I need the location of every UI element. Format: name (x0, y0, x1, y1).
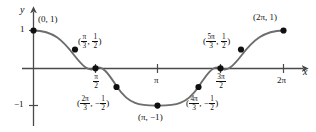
point-label-2pi-1: (2π, 1) (253, 13, 277, 22)
x-tick-label-pi: π (154, 76, 159, 85)
fraction-one-half: 12 (209, 95, 215, 111)
point-label-pi-neg-1: (π, −1) (138, 113, 163, 122)
x-tick-label-pi-over-2: π 2 (89, 73, 103, 89)
point-5pi-over-3 (238, 46, 244, 52)
separator: , (216, 36, 221, 46)
point-0-1 (30, 27, 36, 33)
x-tick-label-two-pi: 2π (277, 76, 286, 85)
paren-close: ) (106, 98, 109, 108)
fraction-4pi-over-3: 4π3 (189, 95, 198, 111)
fraction-one-half: 12 (221, 33, 227, 49)
point-4pi-over-3 (195, 84, 201, 90)
point-2pi-1 (280, 27, 286, 33)
y-tick-label-one: 1 (20, 25, 25, 34)
x-value: 2π (256, 12, 265, 22)
point-3pi-over-2 (217, 65, 223, 71)
point-label-pi-over-3: (π3, 12) (78, 33, 101, 49)
y-axis-label: y (20, 5, 24, 15)
fraction-pi-over-2: π 2 (93, 73, 99, 89)
point-label-2pi-over-3: (2π3, −12) (77, 95, 109, 111)
minus-sign: − (204, 98, 209, 108)
point-label-4pi-over-3: (4π3, −12) (186, 95, 218, 111)
cosine-graph-figure: y x 1 −1 π 2 π 3π 2 2π (0, 1) (π3, 12) (… (0, 0, 316, 132)
paren-close: ) (227, 36, 230, 46)
paren-close: ) (215, 98, 218, 108)
minus-sign: − (95, 98, 100, 108)
point-pi-neg-1 (154, 103, 160, 109)
x-tick-label-three-pi-over-2: 3π 2 (212, 73, 230, 89)
fraction-5pi-over-3: 5π3 (206, 33, 215, 49)
paren-close: ) (160, 112, 163, 122)
y-tick-label-neg-one: −1 (14, 100, 24, 109)
fraction-three-pi-over-2: 3π 2 (216, 73, 225, 89)
paren-close: ) (98, 36, 101, 46)
point-pi-over-2 (92, 65, 98, 71)
fraction-pi-over-3: π3 (81, 33, 87, 49)
point-2pi-over-3 (113, 84, 119, 90)
point-label-5pi-over-3: (5π3, 12) (203, 33, 230, 49)
y-value: −1 (150, 112, 160, 122)
paren-close: ) (274, 12, 277, 22)
paren-close: ) (55, 14, 58, 24)
separator: , (88, 36, 93, 46)
fraction-2pi-over-3: 2π3 (80, 95, 89, 111)
fraction-one-half: 12 (100, 95, 106, 111)
x-axis-label: x (303, 67, 307, 77)
point-label-0-1: (0, 1) (38, 15, 58, 24)
